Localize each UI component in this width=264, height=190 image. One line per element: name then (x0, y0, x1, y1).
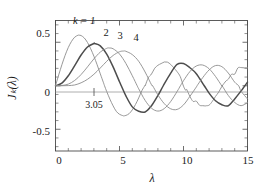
curve-label-k4: 4 (133, 32, 139, 43)
x-tick-label-5: 5 (120, 154, 126, 166)
x-axis-ticks (56, 21, 248, 152)
y-tick-label-0: 0 (45, 86, 51, 98)
y-axis-title: Jₖ(λ) (5, 76, 19, 100)
x-tick-label-10: 10 (182, 154, 194, 166)
curve-label-k3: 3 (117, 30, 122, 41)
x-tick-label-15: 15 (243, 154, 255, 166)
curve-label-k1: k = 1 (73, 15, 95, 26)
first-maximum-annotation: 3.05 (85, 99, 103, 110)
x-axis-title: λ (148, 171, 154, 185)
x-tick-label-0: 0 (56, 154, 62, 166)
plot-frame (56, 21, 248, 152)
curve-label-k2: 2 (103, 27, 108, 38)
y-axis-ticks (56, 25, 248, 147)
y-tick-label-neg0p5: -0.5 (33, 125, 51, 137)
bessel-function-chart: 0 5 10 15 0.5 0 -0.5 λ Jₖ(λ) 3.05 k = 1 … (0, 0, 264, 190)
y-tick-label-0p5: 0.5 (36, 27, 50, 39)
